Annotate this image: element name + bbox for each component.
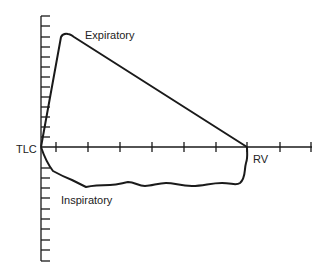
- x-axis: [41, 142, 312, 152]
- tlc-label: TLC: [16, 143, 37, 155]
- expiratory-label: Expiratory: [85, 29, 135, 41]
- inspiratory-curve: [41, 147, 247, 187]
- flow-volume-loop-diagram: Expiratory Inspiratory TLC RV: [0, 0, 326, 275]
- rv-label: RV: [253, 153, 269, 165]
- expiratory-curve: [41, 34, 247, 147]
- inspiratory-label: Inspiratory: [61, 194, 113, 206]
